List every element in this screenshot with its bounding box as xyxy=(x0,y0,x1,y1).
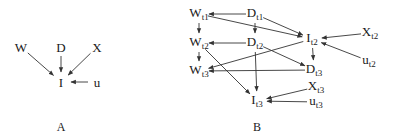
edge-x-to-i xyxy=(68,53,90,75)
edge-xt3-to-it3 xyxy=(267,89,308,99)
node-subscript: t3 xyxy=(316,100,323,110)
edge-xt2-to-it2 xyxy=(322,34,361,38)
node-subscript: t2 xyxy=(256,41,263,51)
node-label: D xyxy=(247,34,256,49)
node-subscript: t1 xyxy=(202,12,209,22)
node-label: I xyxy=(59,75,63,90)
node-label: D xyxy=(306,61,315,76)
edge-dt2-to-it3 xyxy=(255,52,256,91)
node-subscript: t3 xyxy=(315,68,322,78)
node-label: W xyxy=(189,62,201,77)
edge-ut2-to-it2 xyxy=(321,43,360,58)
node-subscript: t2 xyxy=(371,31,378,41)
edge-ut3-to-it3 xyxy=(267,101,307,102)
node-dt1: Dt1 xyxy=(247,6,263,22)
node-label: D xyxy=(247,5,256,20)
node-subscript: t1 xyxy=(256,12,263,22)
caption-a: A xyxy=(57,120,66,135)
edge-dt2-to-dt3 xyxy=(263,47,305,66)
node-it2: It2 xyxy=(306,31,317,47)
edge-dt3-to-wt3 xyxy=(209,70,305,71)
node-subscript: t3 xyxy=(256,99,263,109)
node-w: W xyxy=(15,41,27,54)
node-label: W xyxy=(189,34,201,49)
node-subscript: t2 xyxy=(369,59,376,69)
node-ut3: ut3 xyxy=(309,94,323,110)
node-label: W xyxy=(15,40,27,55)
node-dt2: Dt2 xyxy=(247,35,263,51)
node-i: I xyxy=(59,76,63,89)
node-x: X xyxy=(92,41,101,54)
node-label: D xyxy=(56,40,65,55)
node-it3: It3 xyxy=(251,93,262,109)
node-subscript: t2 xyxy=(311,37,318,47)
node-wt2: Wt2 xyxy=(189,35,208,51)
node-subscript: t3 xyxy=(202,69,209,79)
edge-wt2-to-it3 xyxy=(205,49,250,94)
node-u: u xyxy=(94,76,101,89)
node-d: D xyxy=(56,41,65,54)
node-subscript: t2 xyxy=(202,41,209,51)
node-label: W xyxy=(189,5,201,20)
node-label: u xyxy=(94,75,101,90)
node-dt3: Dt3 xyxy=(306,62,322,78)
node-xt2: Xt2 xyxy=(362,25,378,41)
caption-b: B xyxy=(253,120,261,135)
node-label: X xyxy=(308,78,317,93)
edge-it2-to-dt3 xyxy=(313,48,314,60)
node-ut2: ut2 xyxy=(362,53,376,69)
node-wt1: Wt1 xyxy=(189,6,208,22)
edge-w-to-i xyxy=(28,53,54,76)
node-label: X xyxy=(92,40,101,55)
node-label: X xyxy=(362,24,371,39)
node-wt3: Wt3 xyxy=(189,63,208,79)
